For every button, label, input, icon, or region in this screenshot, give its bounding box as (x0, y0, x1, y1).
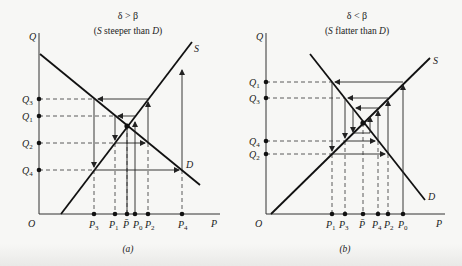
panel-a-subtitle: (S steeper than D) (94, 26, 162, 37)
svg-text:P0: P0 (132, 219, 143, 232)
svg-text:Q1: Q1 (22, 111, 33, 124)
svg-text:Q3: Q3 (249, 93, 260, 106)
svg-text:P3: P3 (338, 219, 349, 232)
svg-text:Q1: Q1 (249, 77, 260, 90)
svg-text:Q2: Q2 (22, 138, 33, 151)
panel-a-caption: (a) (122, 244, 133, 255)
supply-curve (271, 58, 430, 214)
svg-text:P̄: P̄ (122, 219, 129, 230)
p-axis-label: P (210, 218, 217, 229)
p-axis-label: P (435, 218, 442, 229)
demand-label: D (427, 191, 436, 202)
supply-label: S (194, 43, 199, 54)
cobweb-path (332, 82, 403, 214)
p-tick-labels: P3 P1 P̄ P0 P2 P4 (88, 219, 188, 232)
supply-label: S (433, 55, 438, 66)
equilibrium-point (360, 120, 365, 125)
svg-text:Q4: Q4 (22, 165, 33, 178)
q-axis-label: Q (29, 31, 37, 42)
origin-label: O (255, 218, 262, 229)
cobweb-path (94, 70, 182, 214)
svg-text:P4: P4 (371, 219, 382, 232)
svg-text:P1: P1 (108, 219, 119, 232)
svg-text:P4: P4 (177, 219, 188, 232)
svg-text:Q2: Q2 (249, 149, 260, 162)
origin-label: O (28, 218, 35, 229)
svg-text:P1: P1 (325, 219, 336, 232)
panel-b-caption: (b) (339, 244, 350, 255)
panel-b-subtitle: (S flatter than D) (325, 26, 389, 37)
dashed-q-guides (266, 82, 345, 154)
svg-text:Q4: Q4 (249, 136, 260, 149)
point-markers (37, 97, 185, 217)
panel-a-title: δ > β (118, 10, 138, 21)
demand-curve (310, 54, 425, 200)
panel-b-title: δ < β (347, 10, 367, 21)
svg-text:P3: P3 (88, 219, 99, 232)
demand-curve (40, 54, 200, 185)
svg-text:P̄: P̄ (358, 219, 365, 230)
q-tick-labels: Q1 Q3 Q4 Q2 (249, 77, 260, 162)
q-axis-label: Q (256, 31, 264, 42)
panel-b: δ < β (S flatter than D) Q P O S D (249, 10, 445, 255)
svg-text:P0: P0 (397, 219, 408, 232)
demand-label: D (185, 159, 194, 170)
panel-a: δ > β (S steeper than D) Q P O S D (22, 10, 220, 255)
svg-text:P2: P2 (383, 219, 394, 232)
svg-text:Q3: Q3 (22, 94, 33, 107)
dashed-p-guides (332, 123, 388, 214)
p-tick-labels: P1 P3 P̄ P4 P2 P0 (325, 219, 408, 232)
svg-text:P2: P2 (144, 219, 155, 232)
q-tick-labels: Q3 Q1 Q2 Q4 (22, 94, 33, 178)
cobweb-figure: δ > β (S steeper than D) Q P O S D (0, 0, 462, 266)
equilibrium-point (124, 123, 129, 128)
